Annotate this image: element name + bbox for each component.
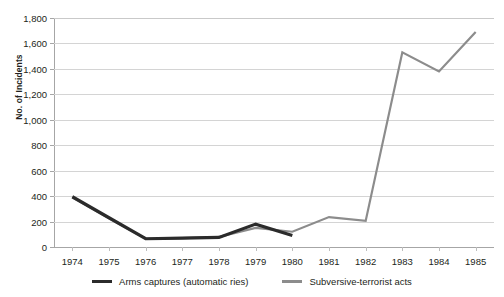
x-axis-tick <box>146 247 147 251</box>
series-line <box>72 32 475 239</box>
y-axis-tick-label: 1,200 <box>23 89 47 100</box>
x-axis-tick <box>329 247 330 251</box>
x-axis-tick-label: 1976 <box>135 256 156 267</box>
x-axis-tick <box>402 247 403 251</box>
y-axis-tick-label: 1,600 <box>23 38 47 49</box>
y-axis-tick-label: 1,400 <box>23 63 47 74</box>
x-axis-tick-label: 1985 <box>465 256 486 267</box>
y-axis-tick-label: 1,800 <box>23 13 47 24</box>
line-chart: No. of Incidents 02004006008001,0001,200… <box>0 0 504 297</box>
y-axis-tick-label: 400 <box>31 191 47 202</box>
x-axis-tick-label: 1977 <box>172 256 193 267</box>
legend-label: Subversive-terrorist acts <box>309 276 411 287</box>
gridline <box>54 247 494 248</box>
legend-item[interactable]: Subversive-terrorist acts <box>282 276 411 287</box>
legend-item[interactable]: Arms captures (automatic ries) <box>92 276 248 287</box>
x-axis-tick <box>182 247 183 251</box>
x-axis-tick-label: 1983 <box>392 256 413 267</box>
x-axis-tick-label: 1980 <box>282 256 303 267</box>
x-axis-tick <box>72 247 73 251</box>
x-axis-tick <box>256 247 257 251</box>
x-axis-tick-label: 1984 <box>428 256 449 267</box>
y-axis-tick-label: 600 <box>31 165 47 176</box>
y-axis-tick-label: 0 <box>42 242 47 253</box>
x-axis-tick-label: 1974 <box>62 256 83 267</box>
chart-legend: Arms captures (automatic ries)Subversive… <box>0 276 504 287</box>
y-axis-tick-label: 200 <box>31 216 47 227</box>
x-axis-tick <box>439 247 440 251</box>
x-axis-tick-label: 1982 <box>355 256 376 267</box>
legend-swatch-icon <box>92 280 112 283</box>
y-axis-tick <box>50 247 54 248</box>
x-axis-tick <box>109 247 110 251</box>
legend-swatch-icon <box>282 280 302 283</box>
y-axis-tick-label: 1,000 <box>23 114 47 125</box>
x-axis-tick-label: 1981 <box>318 256 339 267</box>
legend-label: Arms captures (automatic ries) <box>119 276 248 287</box>
x-axis-tick <box>292 247 293 251</box>
series-lines <box>54 18 494 247</box>
x-axis-tick-label: 1979 <box>245 256 266 267</box>
x-axis-tick <box>219 247 220 251</box>
plot-area: 02004006008001,0001,2001,4001,6001,800 1… <box>54 18 494 247</box>
x-axis-tick-label: 1975 <box>98 256 119 267</box>
x-axis-tick <box>476 247 477 251</box>
y-axis-tick-label: 800 <box>31 140 47 151</box>
series-line <box>72 197 292 239</box>
x-axis-tick-label: 1978 <box>208 256 229 267</box>
x-axis-tick <box>366 247 367 251</box>
